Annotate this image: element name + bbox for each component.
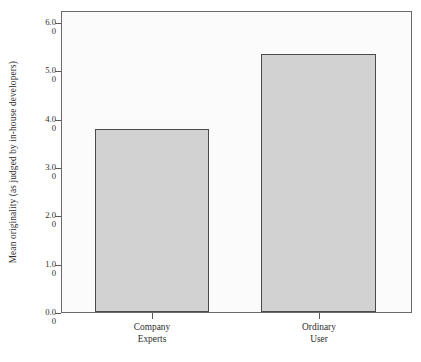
y-tick-label-5-line1: 5.0 — [22, 66, 56, 75]
y-tick-label-1-line2: 0 — [22, 269, 56, 278]
y-tick-label-5: 5.0 0 — [22, 66, 56, 84]
y-tick-label-0-line2: 0 — [22, 317, 56, 326]
bar-company-experts[interactable] — [95, 129, 209, 312]
y-tick-label-5-line2: 0 — [22, 75, 56, 84]
y-tick-label-2-line1: 2.0 — [22, 211, 56, 220]
x-tick-label-ordinary-user-line1: Ordinary — [254, 322, 384, 334]
x-tick-label-ordinary-user-line2: User — [254, 334, 384, 346]
y-tick-label-4-line1: 4.0 — [22, 115, 56, 124]
y-tick-label-6-line2: 0 — [22, 27, 56, 36]
y-tick-label-2: 2.0 0 — [22, 211, 56, 229]
x-tick-label-company-experts-line1: Company — [87, 322, 217, 334]
y-tick-label-3-line2: 0 — [22, 172, 56, 181]
y-tick-label-3: 3.0 0 — [22, 163, 56, 181]
bar-ordinary-user[interactable] — [261, 54, 376, 312]
y-tick-label-0: 0.0 0 — [22, 308, 56, 326]
bar-chart: Mean originality (as judged by in-house … — [0, 0, 421, 362]
y-tick-label-4-line2: 0 — [22, 124, 56, 133]
y-tick-label-3-line1: 3.0 — [22, 163, 56, 172]
x-tick-mark-ordinary-user — [319, 313, 320, 319]
x-tick-mark-company-experts — [152, 313, 153, 319]
plot-area — [61, 11, 412, 313]
y-tick-label-2-line2: 0 — [22, 220, 56, 229]
plot-inner — [62, 12, 411, 312]
x-tick-label-company-experts: Company Experts — [87, 322, 217, 345]
x-tick-label-company-experts-line2: Experts — [87, 334, 217, 346]
y-tick-label-0-line1: 0.0 — [22, 308, 56, 317]
y-tick-label-1-line1: 1.0 — [22, 260, 56, 269]
y-tick-label-6: 6.0 0 — [22, 18, 56, 36]
y-tick-mark-0 — [55, 313, 61, 314]
y-tick-label-4: 4.0 0 — [22, 115, 56, 133]
y-tick-label-1: 1.0 0 — [22, 260, 56, 278]
x-tick-label-ordinary-user: Ordinary User — [254, 322, 384, 345]
y-tick-label-6-line1: 6.0 — [22, 18, 56, 27]
y-axis-title-text: Mean originality (as judged by in-house … — [8, 61, 18, 263]
